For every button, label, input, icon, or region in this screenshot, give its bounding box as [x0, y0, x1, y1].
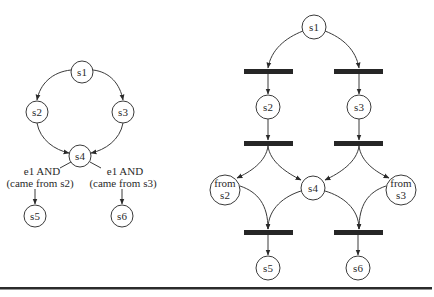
- edge-s3-s4: [91, 123, 123, 153]
- place-s5-label: s5: [263, 262, 273, 274]
- place-from-s2: from s2: [210, 175, 240, 205]
- arc-s4-t5: [268, 191, 301, 229]
- left-state-diagram: s1 s2 s3 s4 s5 s6 e1 AND (came from s2) …: [6, 61, 157, 227]
- arc-from-s2-t5: [240, 186, 268, 229]
- state-s6-label: s6: [117, 210, 127, 222]
- place-s4: s4: [301, 176, 325, 200]
- place-from-s3-line1: from: [390, 177, 412, 189]
- state-s5-label: s5: [30, 210, 40, 222]
- place-s2: s2: [256, 95, 280, 119]
- arc-t3-from-s2: [237, 146, 268, 178]
- label-right-line1: e1 AND: [107, 165, 143, 177]
- place-s3: s3: [347, 95, 371, 119]
- edge-s4-label-left: [60, 162, 71, 168]
- bottom-divider: [0, 287, 432, 290]
- diagram-canvas: s1 s2 s3 s4 s5 s6 e1 AND (came from s2) …: [0, 0, 434, 297]
- place-s1: s1: [302, 15, 326, 39]
- arc-s1-t1: [268, 31, 303, 68]
- arc-s1-t2: [325, 31, 359, 68]
- state-s4-label: s4: [75, 150, 85, 162]
- arc-t4-from-s3: [359, 146, 389, 178]
- place-s1-label: s1: [309, 21, 319, 33]
- transition-bar-t6: [334, 230, 383, 235]
- transition-bar-t3: [244, 141, 293, 146]
- arc-s4-t6: [325, 191, 359, 229]
- edge-s2-s4: [37, 123, 69, 153]
- edge-s1-s3: [93, 70, 123, 100]
- place-s5: s5: [256, 256, 280, 280]
- state-s4: s4: [69, 145, 91, 167]
- state-s5: s5: [24, 205, 46, 227]
- edge-s1-s2: [37, 70, 71, 100]
- place-from-s2-line1: from: [214, 177, 236, 189]
- state-s3-label: s3: [118, 106, 128, 118]
- arc-from-s3-t6: [359, 186, 386, 229]
- state-s3: s3: [112, 101, 134, 123]
- transition-bar-t2: [334, 69, 383, 74]
- transition-bar-t1: [244, 69, 293, 74]
- arc-t4-s4: [325, 146, 359, 180]
- label-left-line1: e1 AND: [24, 165, 60, 177]
- place-s6: s6: [346, 256, 370, 280]
- label-right-line2: (came from s3): [89, 177, 157, 190]
- place-s4-label: s4: [308, 182, 318, 194]
- state-s1: s1: [71, 61, 93, 83]
- transition-label-s4-s6: e1 AND (came from s3): [89, 165, 157, 190]
- transition-bar-t4: [334, 141, 383, 146]
- place-from-s3: from s3: [386, 175, 416, 205]
- place-s6-label: s6: [353, 262, 363, 274]
- place-from-s3-line2: s3: [396, 189, 406, 201]
- label-left-line2: (came from s2): [6, 177, 74, 190]
- transition-bar-t5: [244, 230, 293, 235]
- state-s6: s6: [111, 205, 133, 227]
- state-s2: s2: [26, 101, 48, 123]
- place-s2-label: s2: [263, 101, 273, 113]
- arc-t3-s4: [268, 146, 301, 180]
- right-petri-net: s1 s2 s3 from s2 s4 from s3 s5: [210, 15, 416, 280]
- edge-s4-label-right: [90, 162, 101, 168]
- state-s1-label: s1: [77, 66, 87, 78]
- place-from-s2-line2: s2: [220, 189, 230, 201]
- place-s3-label: s3: [354, 101, 364, 113]
- transition-label-s4-s5: e1 AND (came from s2): [6, 165, 74, 190]
- state-s2-label: s2: [32, 106, 42, 118]
